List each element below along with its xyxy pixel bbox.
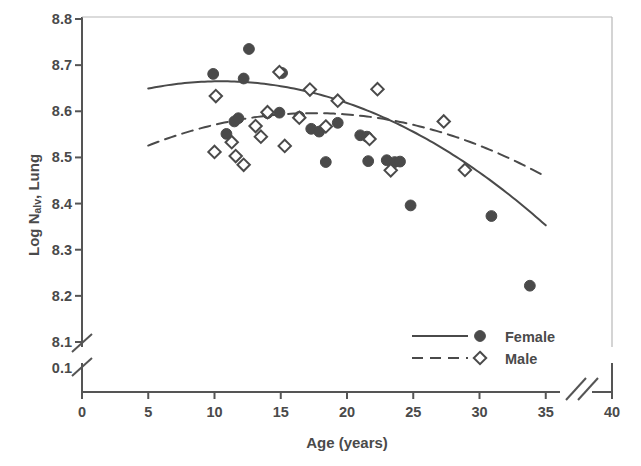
data-point-male	[438, 115, 450, 127]
y-tick-label: 8.4	[14, 196, 72, 212]
data-point-male	[371, 83, 383, 95]
x-axis-title: Age (years)	[82, 434, 612, 451]
x-tick-label: 0	[78, 404, 86, 420]
data-point-male	[208, 146, 220, 158]
y-tick-label: 8.6	[14, 103, 72, 119]
legend-label-female: Female	[505, 329, 555, 345]
y-tick-label: 8.1	[14, 334, 72, 350]
x-tick-label: 35	[538, 404, 554, 420]
legend-marker-female	[475, 331, 486, 342]
y-axis-title-main: Log N	[25, 214, 42, 257]
x-tick-label: 10	[206, 404, 222, 420]
y-tick-label: 8.8	[14, 11, 72, 27]
data-point-female	[363, 156, 374, 167]
data-point-male	[210, 90, 222, 102]
data-point-female	[405, 200, 416, 211]
data-point-female	[208, 69, 219, 80]
data-point-female	[486, 211, 497, 222]
chart-figure: 8.18.28.38.48.58.68.78.80.1 051015202530…	[0, 0, 641, 466]
y-tick-label: 8.7	[14, 57, 72, 73]
data-point-female	[233, 113, 244, 124]
y-tick-label-break-low: 0.1	[14, 360, 72, 376]
y-axis-title-subscript: alv	[31, 199, 43, 214]
x-tick-label: 20	[339, 404, 355, 420]
data-point-female	[244, 44, 255, 55]
y-tick-label: 8.5	[14, 149, 72, 165]
data-point-female	[274, 107, 285, 118]
data-points-group	[208, 44, 535, 292]
data-point-male	[230, 150, 242, 162]
data-point-female	[238, 73, 249, 84]
x-tick-label: 5	[144, 404, 152, 420]
fit-curves-group	[148, 81, 546, 225]
y-axis-title-tail: , Lung	[25, 154, 42, 199]
legend-marker-male	[474, 352, 486, 364]
data-point-female	[395, 156, 406, 167]
x-tick-label: 15	[273, 404, 289, 420]
data-point-female	[320, 157, 331, 168]
legend-symbols-group	[412, 331, 486, 365]
x-tick-label: 25	[405, 404, 421, 420]
x-tick-label: 30	[471, 404, 487, 420]
fit-curve-female	[148, 81, 546, 225]
data-point-male	[279, 140, 291, 152]
data-point-male	[332, 94, 344, 106]
legend-label-male: Male	[505, 351, 537, 367]
data-point-female	[332, 117, 343, 128]
y-tick-label: 8.2	[14, 288, 72, 304]
x-tick-label: 40	[604, 404, 620, 420]
fit-curve-male	[148, 113, 546, 177]
y-axis-title: Log Nalv, Lung	[25, 105, 43, 305]
plot-canvas	[0, 0, 641, 466]
data-point-female	[524, 280, 535, 291]
y-tick-label: 8.3	[14, 242, 72, 258]
data-point-male	[237, 159, 249, 171]
